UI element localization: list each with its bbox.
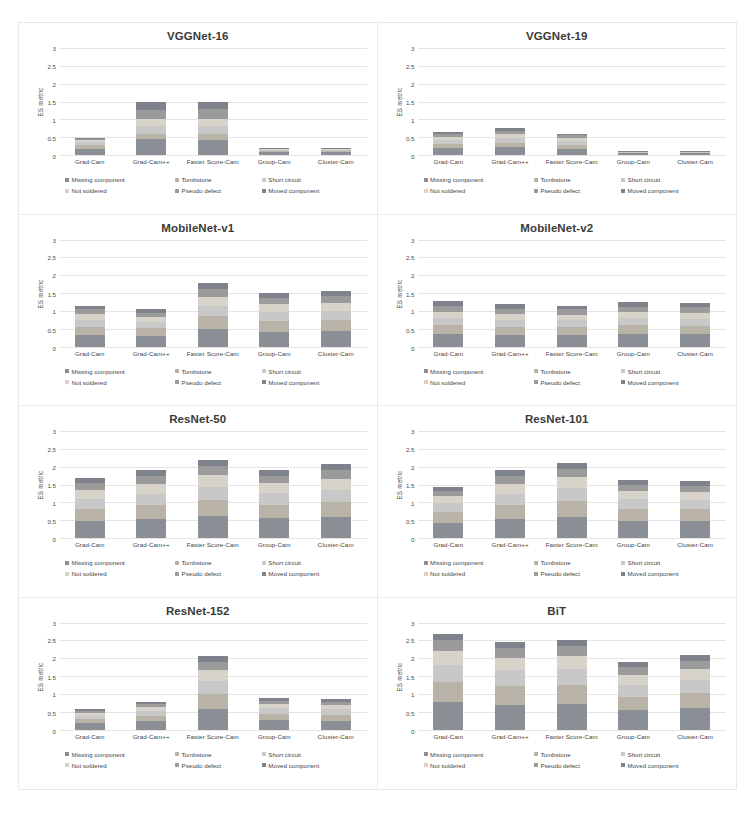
stacked-bar[interactable] bbox=[321, 464, 351, 538]
plot-area: ES metric00.511.522.53Grad-CamGrad-Cam++… bbox=[27, 431, 367, 539]
bar-segment-not-soldered bbox=[75, 490, 105, 499]
bar-segment-not-soldered bbox=[198, 297, 228, 306]
stacked-bar[interactable] bbox=[321, 291, 351, 346]
stacked-bar[interactable] bbox=[433, 132, 463, 155]
legend-item-not-soldered[interactable]: Not soldered bbox=[424, 762, 534, 769]
stacked-bar[interactable] bbox=[75, 305, 105, 346]
legend-item-pseudo-defect[interactable]: Pseudo defect bbox=[175, 187, 262, 194]
legend-item-not-soldered[interactable]: Not soldered bbox=[65, 762, 175, 769]
legend-item-moved-component[interactable]: Moved component bbox=[262, 762, 355, 769]
legend-item-short-circuit[interactable]: Short circuit bbox=[262, 368, 355, 375]
stacked-bar[interactable] bbox=[136, 102, 166, 156]
legend-item-pseudo-defect[interactable]: Pseudo defect bbox=[534, 762, 621, 769]
stacked-bar[interactable] bbox=[433, 487, 463, 538]
stacked-bar[interactable] bbox=[259, 148, 289, 155]
legend-row: Missing componentTombstoneShort circuit bbox=[65, 751, 355, 758]
legend-item-tombstone[interactable]: Tombstone bbox=[175, 176, 262, 183]
legend-item-short-circuit[interactable]: Short circuit bbox=[262, 176, 355, 183]
stacked-bar[interactable] bbox=[680, 481, 710, 538]
legend-item-moved-component[interactable]: Moved component bbox=[621, 762, 714, 769]
stacked-bar[interactable] bbox=[495, 470, 525, 538]
chart-legend: Missing componentTombstoneShort circuitN… bbox=[424, 368, 715, 390]
stacked-bar[interactable] bbox=[618, 662, 648, 729]
stacked-bar[interactable] bbox=[557, 305, 587, 346]
stacked-bar[interactable] bbox=[495, 304, 525, 346]
legend-item-tombstone[interactable]: Tombstone bbox=[534, 176, 621, 183]
legend-item-tombstone[interactable]: Tombstone bbox=[534, 559, 621, 566]
stacked-bar[interactable] bbox=[680, 303, 710, 347]
stacked-bar[interactable] bbox=[259, 470, 289, 538]
stacked-bar[interactable] bbox=[198, 102, 228, 156]
stacked-bar[interactable] bbox=[495, 128, 525, 155]
legend-item-short-circuit[interactable]: Short circuit bbox=[621, 559, 714, 566]
stacked-bar[interactable] bbox=[557, 463, 587, 538]
stacked-bar[interactable] bbox=[198, 656, 228, 730]
stacked-bar[interactable] bbox=[259, 698, 289, 729]
legend-item-pseudo-defect[interactable]: Pseudo defect bbox=[534, 570, 621, 577]
legend-item-moved-component[interactable]: Moved component bbox=[262, 570, 355, 577]
legend-item-missing-component[interactable]: Missing component bbox=[65, 751, 175, 758]
legend-item-missing-component[interactable]: Missing component bbox=[424, 176, 534, 183]
legend-item-moved-component[interactable]: Moved component bbox=[621, 187, 714, 194]
stacked-bar[interactable] bbox=[75, 709, 105, 729]
legend-item-short-circuit[interactable]: Short circuit bbox=[621, 176, 714, 183]
legend-item-moved-component[interactable]: Moved component bbox=[262, 379, 355, 386]
legend-item-moved-component[interactable]: Moved component bbox=[262, 187, 355, 194]
stacked-bar[interactable] bbox=[75, 138, 105, 155]
legend-item-pseudo-defect[interactable]: Pseudo defect bbox=[175, 570, 262, 577]
stacked-bar[interactable] bbox=[680, 655, 710, 729]
legend-item-missing-component[interactable]: Missing component bbox=[424, 751, 534, 758]
legend-item-pseudo-defect[interactable]: Pseudo defect bbox=[534, 187, 621, 194]
legend-item-not-soldered[interactable]: Not soldered bbox=[65, 187, 175, 194]
stacked-bar[interactable] bbox=[680, 151, 710, 155]
stacked-bar[interactable] bbox=[136, 470, 166, 538]
bar-segment-tombstone bbox=[495, 505, 525, 519]
stacked-bar[interactable] bbox=[618, 302, 648, 347]
legend-item-tombstone[interactable]: Tombstone bbox=[534, 751, 621, 758]
legend-item-tombstone[interactable]: Tombstone bbox=[175, 368, 262, 375]
stacked-bar[interactable] bbox=[618, 151, 648, 155]
legend-label: Missing component bbox=[72, 176, 125, 183]
bar-segment-missing-component bbox=[680, 521, 710, 538]
stacked-bar[interactable] bbox=[136, 702, 166, 729]
legend-item-not-soldered[interactable]: Not soldered bbox=[424, 379, 534, 386]
legend-item-short-circuit[interactable]: Short circuit bbox=[262, 751, 355, 758]
legend-item-missing-component[interactable]: Missing component bbox=[65, 176, 175, 183]
stacked-bar[interactable] bbox=[433, 301, 463, 346]
legend-item-missing-component[interactable]: Missing component bbox=[424, 368, 534, 375]
chart-panel-bit: BiTES metric00.511.522.53Grad-CamGrad-Ca… bbox=[378, 598, 737, 790]
stacked-bar[interactable] bbox=[198, 460, 228, 538]
x-tick-grad-cam-: Grad-Cam++ bbox=[479, 541, 541, 548]
stacked-bar[interactable] bbox=[495, 642, 525, 729]
legend-item-pseudo-defect[interactable]: Pseudo defect bbox=[175, 379, 262, 386]
stacked-bar[interactable] bbox=[321, 148, 351, 155]
legend-item-short-circuit[interactable]: Short circuit bbox=[262, 559, 355, 566]
stacked-bar[interactable] bbox=[198, 283, 228, 346]
legend-item-not-soldered[interactable]: Not soldered bbox=[424, 187, 534, 194]
legend-item-short-circuit[interactable]: Short circuit bbox=[621, 368, 714, 375]
stacked-bar[interactable] bbox=[557, 640, 587, 729]
legend-item-short-circuit[interactable]: Short circuit bbox=[621, 751, 714, 758]
legend-item-not-soldered[interactable]: Not soldered bbox=[65, 379, 175, 386]
stacked-bar[interactable] bbox=[433, 634, 463, 729]
stacked-bar[interactable] bbox=[259, 293, 289, 347]
legend-item-tombstone[interactable]: Tombstone bbox=[175, 559, 262, 566]
stacked-bar[interactable] bbox=[321, 699, 351, 729]
legend-item-moved-component[interactable]: Moved component bbox=[621, 379, 714, 386]
bar-segment-pseudo-defect bbox=[198, 466, 228, 475]
legend-item-moved-component[interactable]: Moved component bbox=[621, 570, 714, 577]
legend-item-not-soldered[interactable]: Not soldered bbox=[65, 570, 175, 577]
legend-item-missing-component[interactable]: Missing component bbox=[65, 368, 175, 375]
bar-segment-tombstone bbox=[321, 502, 351, 517]
legend-item-not-soldered[interactable]: Not soldered bbox=[424, 570, 534, 577]
legend-item-tombstone[interactable]: Tombstone bbox=[175, 751, 262, 758]
stacked-bar[interactable] bbox=[75, 478, 105, 538]
legend-item-pseudo-defect[interactable]: Pseudo defect bbox=[534, 379, 621, 386]
legend-item-missing-component[interactable]: Missing component bbox=[424, 559, 534, 566]
stacked-bar[interactable] bbox=[136, 309, 166, 346]
stacked-bar[interactable] bbox=[618, 480, 648, 538]
legend-item-missing-component[interactable]: Missing component bbox=[65, 559, 175, 566]
legend-item-pseudo-defect[interactable]: Pseudo defect bbox=[175, 762, 262, 769]
stacked-bar[interactable] bbox=[557, 134, 587, 155]
legend-item-tombstone[interactable]: Tombstone bbox=[534, 368, 621, 375]
